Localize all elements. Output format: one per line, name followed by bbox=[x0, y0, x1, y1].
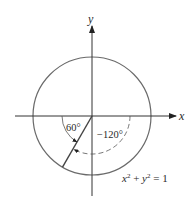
equation-plus: + bbox=[130, 172, 142, 184]
circle-equation: x2 + y2 = 1 bbox=[121, 172, 168, 184]
equation-rhs: = 1 bbox=[151, 172, 168, 184]
angle-label-negative-120: −120° bbox=[97, 129, 123, 140]
x-axis-label: x bbox=[178, 109, 185, 123]
unit-circle-diagram: y x 60° −120° x2 + y2 = 1 bbox=[0, 0, 192, 208]
angle-label-60: 60° bbox=[66, 122, 81, 133]
y-axis-label: y bbox=[87, 12, 94, 26]
